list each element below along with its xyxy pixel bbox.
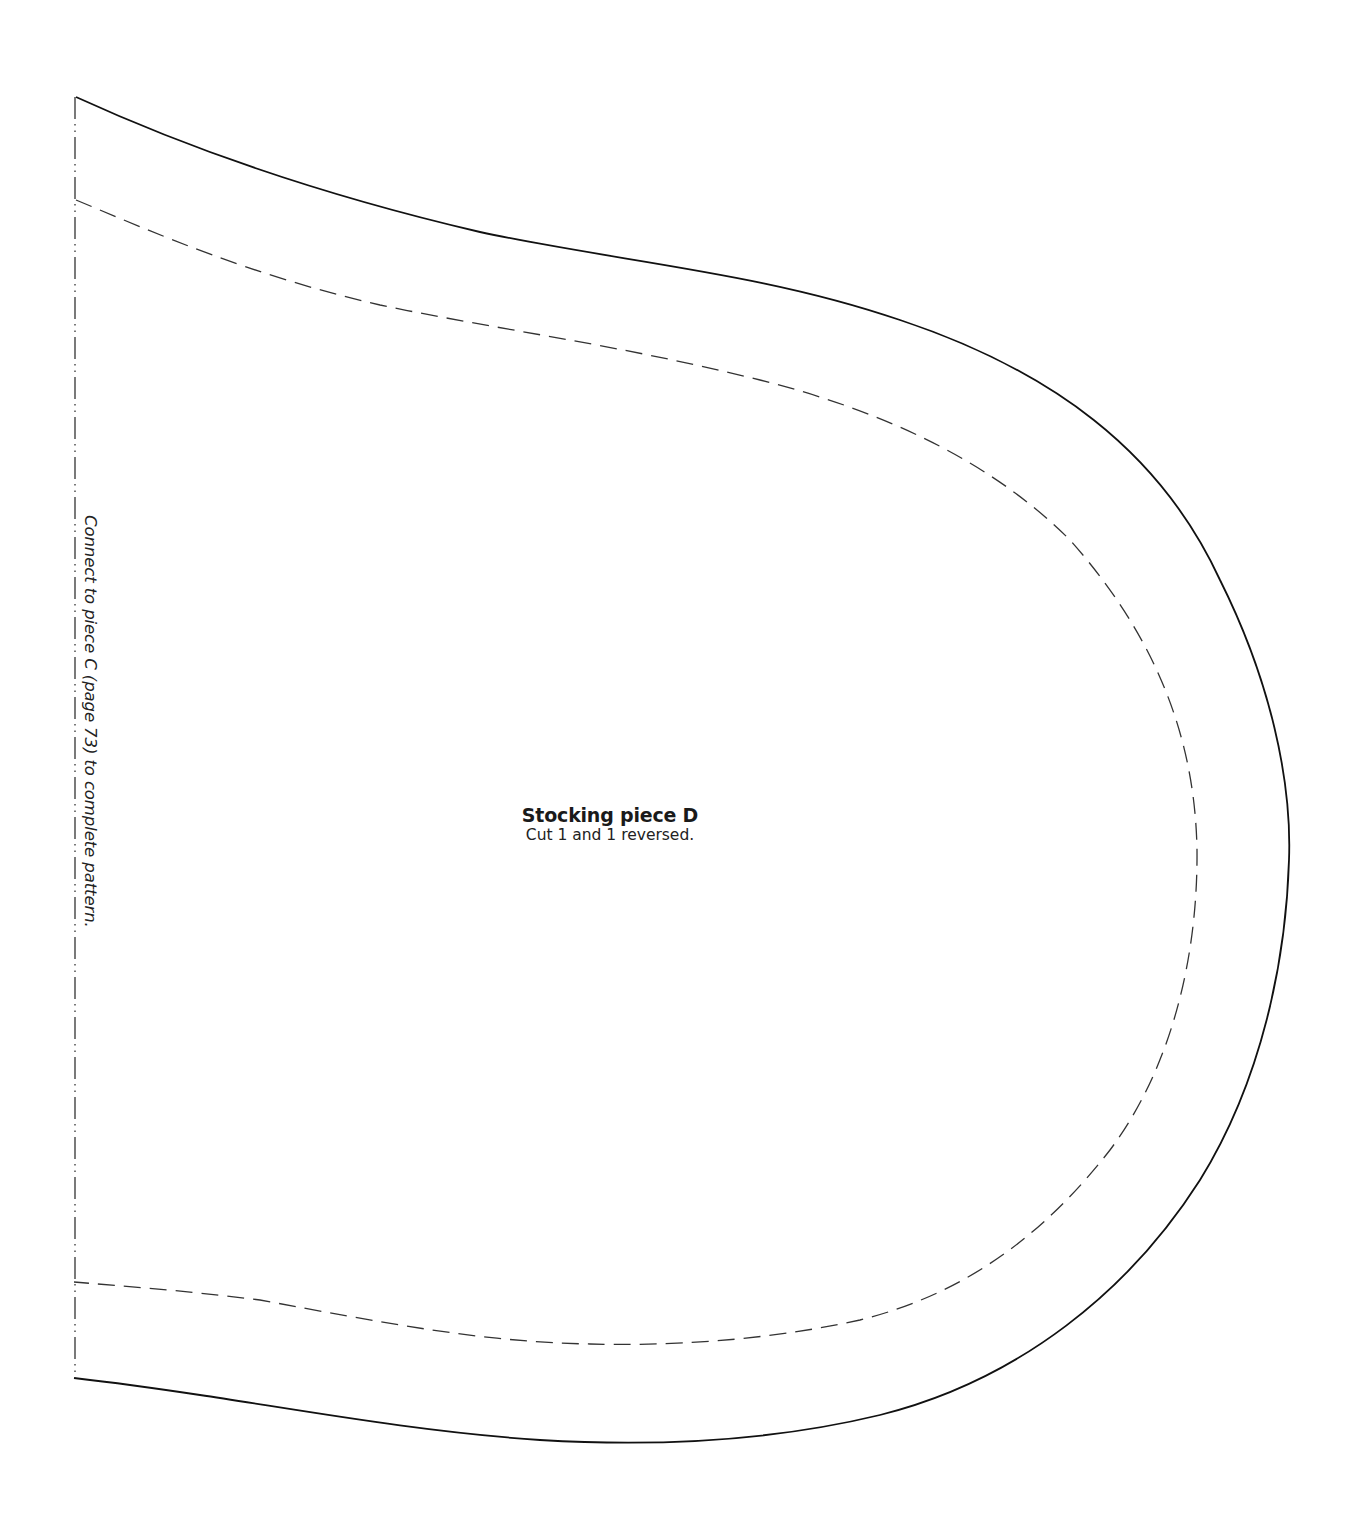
piece-title: Stocking piece D bbox=[410, 806, 810, 825]
seam-line bbox=[74, 200, 1197, 1344]
cut-instruction: Cut 1 and 1 reversed. bbox=[410, 828, 810, 844]
connect-instruction: Connect to piece C (page 73) to complete… bbox=[81, 515, 100, 928]
piece-label: Stocking piece D Cut 1 and 1 reversed. bbox=[410, 806, 810, 844]
pattern-piece-d bbox=[0, 0, 1347, 1513]
cut-line bbox=[74, 97, 1289, 1443]
